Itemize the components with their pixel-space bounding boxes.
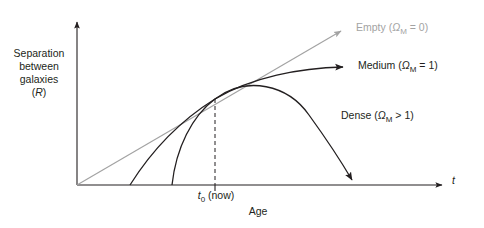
curve-label-dense-suffix: ) [410, 109, 414, 121]
omega-subscript-empty: M [400, 27, 407, 36]
curve-empty [77, 31, 341, 185]
curve-label-medium-prefix: Medium ( [358, 59, 402, 71]
x-axis-label: Age [232, 205, 284, 218]
y-axis-label-symbol: (R) [32, 86, 47, 98]
y-axis-label-line1: Separation [14, 47, 65, 59]
curve-label-dense-relation: > 1 [395, 109, 410, 121]
curve-label-medium-relation: = 1 [419, 59, 434, 71]
curve-medium [130, 67, 343, 185]
omega-symbol-empty: Ω [392, 21, 400, 33]
omega-subscript-dense: M [386, 115, 393, 124]
y-axis-label: Separation between galaxies (R) [8, 47, 70, 99]
omega-symbol-dense: Ω [378, 109, 386, 121]
cosmology-expansion-figure: Separation between galaxies (R) Empty (Ω… [0, 0, 484, 228]
curve-label-empty-relation: = 0 [410, 21, 425, 33]
curve-label-medium-suffix: ) [434, 59, 438, 71]
y-axis-label-line2: between [19, 60, 59, 72]
curve-label-empty-suffix: ) [425, 21, 429, 33]
curve-label-dense: Dense (ΩM > 1) [341, 109, 414, 126]
x-axis-symbol: t [452, 174, 455, 187]
curve-label-dense-prefix: Dense ( [341, 109, 378, 121]
x-axis-tick-label-now: t0 (now) [190, 189, 242, 206]
omega-subscript-medium: M [410, 65, 417, 74]
curve-label-empty: Empty (ΩM = 0) [356, 21, 428, 38]
curve-label-empty-prefix: Empty ( [356, 21, 392, 33]
curve-dense [172, 86, 352, 185]
tick-label-now-text: (now) [208, 189, 234, 201]
y-axis-label-line3: galaxies [20, 73, 59, 85]
curve-label-medium: Medium (ΩM = 1) [358, 59, 438, 76]
omega-symbol-medium: Ω [402, 59, 410, 71]
tick-subscript-zero: 0 [201, 195, 205, 204]
